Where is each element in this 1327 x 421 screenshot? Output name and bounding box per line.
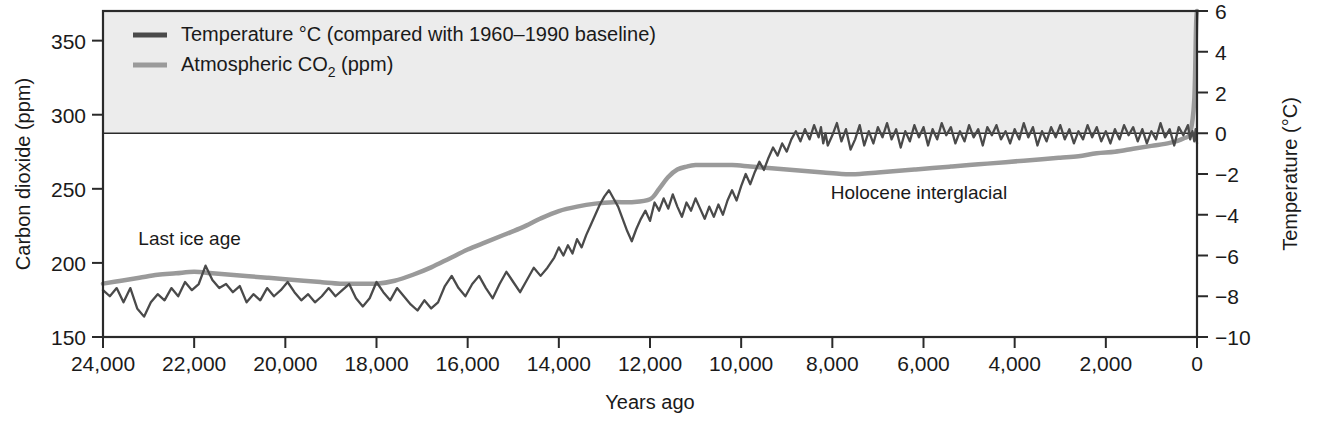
xtick-label: 2,000 xyxy=(1080,352,1133,375)
ytick-label-right: 2 xyxy=(1215,82,1227,105)
ytick-label-left: 300 xyxy=(51,104,86,127)
annotation-holocene-interglacial: Holocene interglacial xyxy=(831,182,1007,203)
chart-figure: 3503002502001506420−2−4−6−8−1024,00022,0… xyxy=(0,0,1327,421)
ytick-label-left: 200 xyxy=(51,252,86,275)
ytick-label-right: −6 xyxy=(1215,245,1239,268)
xtick-label: 18,000 xyxy=(344,352,408,375)
xtick-label: 22,000 xyxy=(162,352,226,375)
ytick-label-right: 0 xyxy=(1215,122,1227,145)
xtick-label: 16,000 xyxy=(436,352,500,375)
ytick-label-left: 250 xyxy=(51,178,86,201)
ytick-label-right: 6 xyxy=(1215,0,1227,23)
xtick-label: 20,000 xyxy=(253,352,317,375)
legend-label-temperature: Temperature °C (compared with 1960–1990 … xyxy=(181,23,656,45)
ytick-label-left: 150 xyxy=(51,326,86,349)
xtick-label: 0 xyxy=(1191,352,1203,375)
xtick-label: 14,000 xyxy=(527,352,591,375)
annotation-last-ice-age: Last ice age xyxy=(138,228,240,249)
xtick-label: 24,000 xyxy=(71,352,135,375)
xtick-label: 6,000 xyxy=(897,352,950,375)
y-axis-label-left: Carbon dioxide (ppm) xyxy=(12,78,34,270)
x-axis-label: Years ago xyxy=(605,391,694,413)
xtick-label: 10,000 xyxy=(709,352,773,375)
y-axis-label-right: Temperature (°C) xyxy=(1279,97,1301,251)
chart-canvas: 3503002502001506420−2−4−6−8−1024,00022,0… xyxy=(0,0,1327,421)
xtick-label: 8,000 xyxy=(806,352,859,375)
xtick-label: 12,000 xyxy=(618,352,682,375)
ytick-label-right: −10 xyxy=(1215,326,1251,349)
ytick-label-right: −2 xyxy=(1215,163,1239,186)
xtick-label: 4,000 xyxy=(988,352,1041,375)
ytick-label-right: 4 xyxy=(1215,41,1227,64)
ytick-label-right: −4 xyxy=(1215,204,1239,227)
ytick-label-right: −8 xyxy=(1215,285,1239,308)
ytick-label-left: 350 xyxy=(51,30,86,53)
plot-background-below-baseline xyxy=(103,133,1197,337)
